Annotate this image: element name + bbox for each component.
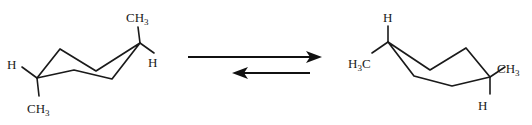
bond-hydrogen-equatorial-left (22, 67, 37, 78)
equilibrium-arrows (188, 51, 322, 79)
bond-methyl-axial-down-left (37, 78, 39, 96)
label-methyl-right-sub: 3 (515, 68, 520, 78)
label-methyl-down-left-main: CH (27, 101, 45, 116)
label-methyl-up-right-main: CH (126, 10, 144, 25)
label-methyl-left-tail: C (362, 56, 371, 71)
label-methyl-axial-down-left: CH3 (27, 101, 50, 118)
label-methyl-right-main: CH (497, 61, 515, 76)
chair-conformer-left: CH3 H CH3 H (7, 10, 157, 118)
bond-methyl-equatorial-left (372, 42, 388, 53)
label-hydrogen-equatorial-left: H (7, 57, 16, 72)
cyclohexane-ring-left (37, 43, 140, 79)
label-methyl-left-main: H (348, 56, 357, 71)
label-methyl-axial-up-right: CH3 (126, 10, 149, 27)
label-methyl-down-left-sub: 3 (45, 108, 50, 118)
cyclohexane-ring-right (388, 42, 490, 86)
chemistry-figure: CH3 H CH3 H H H3C CH3 H (0, 0, 532, 125)
chair-conformer-right: H H3C CH3 H (348, 10, 520, 113)
label-methyl-up-right-sub: 3 (144, 17, 149, 27)
bond-methyl-axial-up-right (138, 27, 140, 43)
label-methyl-equatorial-right: CH3 (497, 61, 520, 78)
label-hydrogen-axial-down-right: H (478, 98, 487, 113)
label-methyl-equatorial-left: H3C (348, 56, 371, 73)
label-hydrogen-equatorial-right: H (148, 55, 157, 70)
reaction-scheme-svg: CH3 H CH3 H H H3C CH3 H (0, 0, 532, 125)
bond-hydrogen-equatorial-right (140, 43, 154, 53)
label-hydrogen-axial-up-left: H (383, 10, 392, 25)
